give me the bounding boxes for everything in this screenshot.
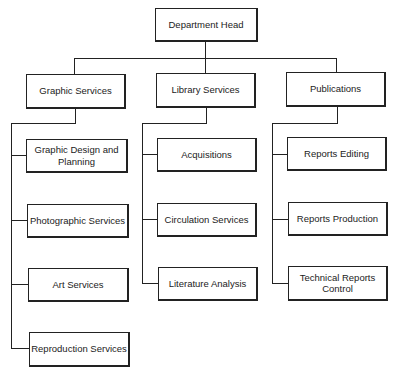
node-circulation-services: Circulation Services <box>157 203 257 237</box>
node-literature-analysis: Literature Analysis <box>158 267 258 301</box>
node-art-services: Art Services <box>28 268 129 302</box>
connector <box>74 58 75 75</box>
node-technical-reports-control: Technical Reports Control <box>288 266 388 301</box>
node-publications: Publications <box>286 72 386 107</box>
connector <box>336 58 337 73</box>
connector <box>142 123 207 124</box>
node-photographic-services: Photographic Services <box>27 204 129 238</box>
connector <box>75 108 76 124</box>
connector <box>142 219 158 220</box>
connector <box>11 220 28 221</box>
connector <box>272 219 288 220</box>
node-graphic-design-planning: Graphic Design and Planning <box>26 139 128 173</box>
connector <box>206 107 207 124</box>
connector <box>272 123 338 124</box>
node-reports-editing: Reports Editing <box>287 137 387 171</box>
node-department-head: Department Head <box>155 8 258 42</box>
connector <box>11 155 27 156</box>
node-library-services: Library Services <box>156 73 256 108</box>
connector <box>205 41 206 58</box>
connector <box>142 123 143 283</box>
connector <box>205 58 206 74</box>
connector <box>11 123 12 348</box>
connector <box>272 283 288 284</box>
connector <box>272 123 273 283</box>
connector <box>142 154 158 155</box>
connector <box>11 348 30 349</box>
node-graphic-services: Graphic Services <box>26 74 126 109</box>
node-reproduction-services: Reproduction Services <box>29 332 130 367</box>
connector <box>142 283 158 284</box>
connector <box>272 154 288 155</box>
connector <box>11 284 29 285</box>
connector <box>337 106 338 124</box>
node-reports-production: Reports Production <box>288 202 388 236</box>
connector <box>11 123 76 124</box>
node-acquisitions: Acquisitions <box>157 138 257 172</box>
